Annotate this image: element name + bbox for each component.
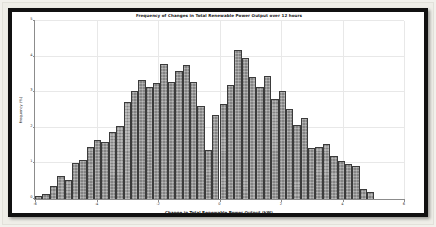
- histogram-bar: [234, 50, 241, 199]
- histogram-bar: [227, 85, 234, 199]
- histogram-bar: [249, 77, 256, 199]
- histogram-bar: [323, 144, 330, 199]
- histogram-bar: [345, 164, 352, 199]
- histogram-bar: [138, 80, 145, 199]
- histogram-bar: [279, 91, 286, 199]
- histogram-bar: [146, 87, 153, 199]
- histogram-bar: [293, 125, 300, 199]
- histogram-bar: [301, 118, 308, 199]
- histogram-bar: [101, 142, 108, 199]
- histogram-bar: [57, 176, 64, 199]
- histogram-bars: [35, 21, 404, 199]
- histogram-bar: [116, 126, 123, 199]
- y-tick-label: 0: [22, 195, 34, 199]
- histogram-bar: [160, 64, 167, 199]
- x-tick-label: 0: [218, 202, 220, 206]
- histogram-bar: [124, 102, 131, 199]
- histogram-bar: [242, 58, 249, 199]
- x-tick-label: -4: [95, 202, 99, 206]
- histogram-bar: [360, 189, 367, 199]
- histogram-bar: [205, 150, 212, 199]
- y-tick-label: 4: [22, 53, 34, 57]
- x-tick-label: 6: [403, 202, 405, 206]
- histogram-bar: [286, 109, 293, 199]
- y-tick-label: 5: [22, 17, 34, 21]
- x-tick-label: -2: [156, 202, 160, 206]
- histogram-bar: [168, 82, 175, 199]
- x-tick-label: 4: [341, 202, 343, 206]
- histogram-bar: [35, 196, 42, 199]
- histogram-bar: [338, 161, 345, 199]
- gridline-vertical: [404, 21, 405, 199]
- histogram-bar: [65, 180, 72, 199]
- histogram-bar: [183, 65, 190, 199]
- histogram-bar: [264, 76, 271, 199]
- y-tick-label: 2: [22, 124, 34, 128]
- histogram-bar: [131, 91, 138, 199]
- histogram-bar: [42, 194, 49, 199]
- histogram-bar: [72, 163, 79, 199]
- histogram-bar: [153, 83, 160, 199]
- histogram-bar: [271, 99, 278, 199]
- histogram-bar: [256, 87, 263, 199]
- y-tick-label: 1: [22, 159, 34, 163]
- histogram-bar: [94, 140, 101, 199]
- plot-area: 012345 -6-4-20246: [34, 21, 404, 200]
- x-axis-label: Change in Total Renewable Power Output (…: [34, 210, 404, 215]
- histogram-bar: [175, 71, 182, 199]
- figure-frame: Frequency of Changes in Total Renewable …: [8, 8, 428, 217]
- histogram-bar: [190, 82, 197, 199]
- histogram-bar: [109, 132, 116, 199]
- histogram-bar: [220, 104, 227, 199]
- x-tick-label: -6: [33, 202, 37, 206]
- y-axis-label: Frequency (%): [19, 97, 23, 124]
- figure-canvas: Frequency of Changes in Total Renewable …: [12, 12, 424, 213]
- histogram-bar: [212, 115, 219, 199]
- x-tick-label: 2: [280, 202, 282, 206]
- histogram-bar: [315, 147, 322, 199]
- histogram-bar: [197, 106, 204, 199]
- y-tick-label: 3: [22, 88, 34, 92]
- histogram-bar: [352, 166, 359, 199]
- chart-title: Frequency of Changes in Total Renewable …: [34, 13, 404, 19]
- histogram-bar: [79, 160, 86, 199]
- histogram-bar: [87, 147, 94, 199]
- histogram-bar: [367, 192, 374, 199]
- histogram-bar: [330, 156, 337, 199]
- histogram-bar: [308, 148, 315, 199]
- screenshot-root: Frequency of Changes in Total Renewable …: [0, 0, 436, 227]
- histogram-bar: [50, 186, 57, 199]
